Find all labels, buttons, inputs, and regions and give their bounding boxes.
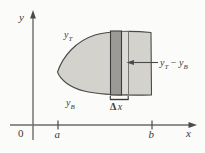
strip-outline-rectangle <box>121 32 129 95</box>
figure-canvas: y x 0 a b yT yB yT − yB <box>0 0 205 153</box>
delta-x-variable: x <box>117 101 123 112</box>
height-label-trail-subscript: B <box>183 63 188 71</box>
delta-x-label: Δx <box>110 101 123 112</box>
representative-strip <box>111 31 122 95</box>
svg-text:yB: yB <box>65 97 75 111</box>
svg-text:yT: yT <box>63 29 73 43</box>
tick-label-b: b <box>149 128 155 140</box>
top-curve-label: yT <box>63 29 73 43</box>
origin-label: 0 <box>18 127 24 139</box>
height-annotation-label: yT − yB <box>159 57 188 71</box>
height-label-operator: − <box>168 57 179 68</box>
bottom-curve-label-subscript: B <box>70 103 75 111</box>
y-axis-arrowhead <box>30 10 36 19</box>
bottom-curve-label: yB <box>65 97 75 111</box>
delta-symbol: Δ <box>110 101 117 112</box>
svg-text:Δx: Δx <box>110 101 123 112</box>
y-axis-label: y <box>18 11 24 23</box>
delta-x-bracket <box>110 96 129 100</box>
svg-text:yT − yB: yT − yB <box>159 57 188 71</box>
top-curve-label-subscript: T <box>68 35 73 43</box>
x-axis-label: x <box>185 127 191 139</box>
tick-label-a: a <box>55 128 61 140</box>
area-between-curves-figure: y x 0 a b yT yB yT − yB <box>0 0 205 153</box>
